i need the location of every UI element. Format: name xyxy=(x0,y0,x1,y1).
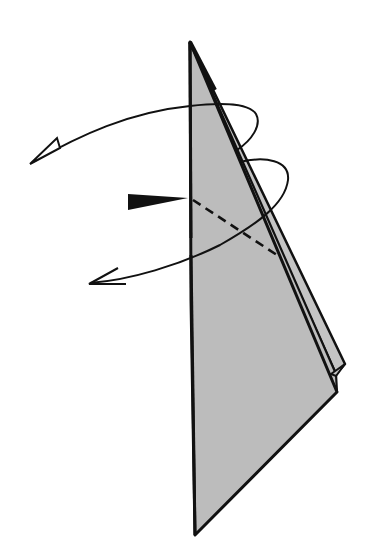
origami-diagram xyxy=(0,0,375,558)
left-edge-upper xyxy=(190,42,191,238)
push-arrow-icon xyxy=(128,194,188,210)
diagram-svg xyxy=(0,0,375,558)
paper-front-flap xyxy=(190,42,337,535)
hollow-arrowhead-icon xyxy=(30,138,60,164)
